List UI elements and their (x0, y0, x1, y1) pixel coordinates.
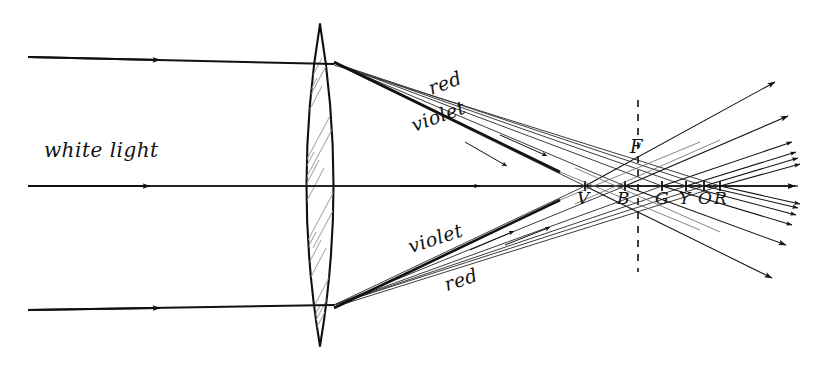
diverging-rays-lower (585, 186, 800, 278)
incoming-parallel-rays (28, 57, 334, 310)
diverging-rays-upper (585, 82, 800, 186)
lens-outline (307, 24, 334, 346)
upper-ray-arrow (28, 57, 160, 60)
diagram-canvas: white light red violet violet red F V B … (0, 0, 817, 368)
red-ray-bold-upper (334, 62, 560, 172)
refracted-rays-lower (334, 186, 720, 308)
optics-diagram-svg (0, 0, 817, 368)
lower-ray-arrow (28, 308, 160, 310)
red-ray-bold-lower (334, 200, 560, 308)
refracted-rays-upper (334, 62, 720, 186)
